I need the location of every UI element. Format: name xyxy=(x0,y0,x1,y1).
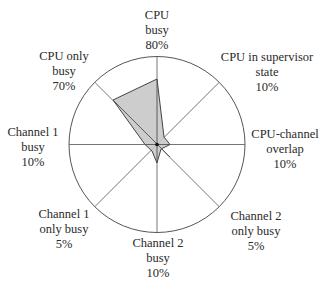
label-cpu-only-busy: CPU onlybusy70% xyxy=(24,49,104,94)
label-channel2-busy: Channel 2busy10% xyxy=(118,236,198,281)
label-channel2-only-busy: Channel 2only busy5% xyxy=(216,209,296,254)
label-cpu-supervisor: CPU in supervisorstate10% xyxy=(208,50,326,95)
label-channel1-busy: Channel 1busy10% xyxy=(0,125,66,170)
data-polygon xyxy=(113,79,170,163)
label-cpu-channel-overlap: CPU-channeloverlap10% xyxy=(244,127,326,172)
label-cpu-busy: CPUbusy80% xyxy=(137,8,177,53)
label-channel1-only-busy: Channel 1only busy5% xyxy=(24,207,104,252)
center-point xyxy=(155,143,159,147)
